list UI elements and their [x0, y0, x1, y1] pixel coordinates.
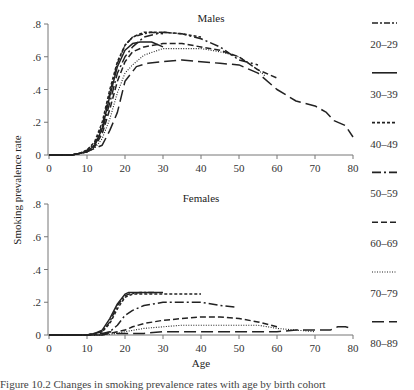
legend-label: 60–69 — [370, 237, 398, 249]
series-line-40–49 — [49, 294, 201, 335]
y-tick-label: .6 — [33, 51, 42, 63]
legend: 20–2930–3940–4950–5960–6970–7980–89 — [370, 23, 398, 349]
x-tick-label: 60 — [272, 162, 284, 174]
x-tick-label: 20 — [120, 342, 132, 354]
y-tick-label: 0 — [36, 149, 42, 161]
y-tick-label: .2 — [33, 116, 41, 128]
x-tick-label: 30 — [158, 342, 170, 354]
x-tick-label: 0 — [46, 162, 52, 174]
x-tick-label: 40 — [196, 162, 208, 174]
x-tick-label: 50 — [234, 342, 246, 354]
legend-label: 20–29 — [370, 38, 398, 50]
series-line-50–59 — [49, 32, 258, 155]
x-tick-label: 10 — [82, 162, 94, 174]
x-tick-label: 20 — [120, 162, 132, 174]
y-tick-label: .2 — [33, 296, 41, 308]
legend-label: 30–39 — [370, 88, 398, 100]
figure-caption: Figure 10.2 Changes in smoking prevalenc… — [0, 378, 326, 390]
legend-label: 80–89 — [370, 337, 398, 349]
y-tick-label: .4 — [33, 84, 42, 96]
series-line-50–59 — [49, 302, 235, 335]
y-tick-label: 0 — [36, 329, 42, 341]
panel-males: 0.2.4.6.801020304050607080Males — [33, 12, 359, 174]
x-tick-label: 70 — [310, 342, 322, 354]
x-tick-label: 10 — [82, 342, 94, 354]
series-line-20–29 — [49, 292, 155, 335]
legend-label: 50–59 — [370, 187, 398, 199]
y-axis-title: Smoking prevalence rate — [11, 135, 23, 244]
x-tick-label: 50 — [234, 162, 246, 174]
x-tick-label: 0 — [46, 342, 52, 354]
panel-title: Males — [198, 12, 225, 24]
x-tick-label: 70 — [310, 162, 322, 174]
x-tick-label: 40 — [196, 342, 208, 354]
legend-label: 40–49 — [370, 138, 398, 150]
series-line-30–39 — [49, 292, 163, 335]
panel-title: Females — [183, 192, 220, 204]
x-tick-label: 80 — [348, 162, 360, 174]
y-tick-label: .8 — [33, 198, 42, 210]
legend-label: 70–79 — [370, 287, 398, 299]
y-tick-label: .4 — [33, 264, 42, 276]
panel-females: 0.2.4.6.801020304050607080Females — [33, 192, 359, 354]
x-tick-label: 80 — [348, 342, 360, 354]
x-tick-label: 60 — [272, 342, 284, 354]
x-axis-title: Age — [192, 357, 210, 369]
y-tick-label: .6 — [33, 231, 42, 243]
series-line-20–29 — [49, 32, 163, 155]
x-tick-label: 30 — [158, 162, 170, 174]
y-tick-label: .8 — [33, 18, 42, 30]
